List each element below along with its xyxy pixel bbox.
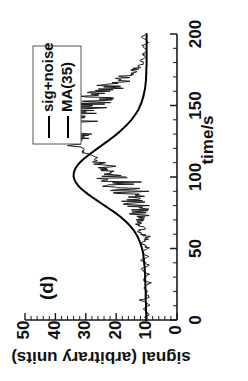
rotated-chart-host: 050100150200 01020304050 time/s signal (… (11, 10, 237, 372)
x-tick-label: 100 (186, 163, 205, 191)
figure-frame: 050100150200 01020304050 time/s signal (… (0, 0, 248, 381)
y-tick-label: 10 (136, 321, 155, 340)
x-tick-label: 0 (186, 315, 205, 324)
y-tick-label: 40 (45, 321, 64, 340)
figure-outer-border: 050100150200 01020304050 time/s signal (… (11, 10, 237, 372)
panel-label: (d) (36, 276, 57, 300)
x-tick-label: 200 (186, 20, 205, 48)
y-tick-label: 30 (75, 321, 94, 340)
x-tick-label: 50 (186, 239, 205, 258)
y-axis-title: signal (arbitrary units) (11, 348, 190, 367)
y-tick-label: 20 (106, 321, 125, 340)
legend-label-sig-noise: sig+noise (39, 42, 56, 112)
x-axis-tick-labels: 050100150200 (186, 20, 205, 325)
legend-label-ma: MA(35) (58, 62, 75, 112)
x-axis-title: time/s (198, 115, 217, 164)
y-tick-label: 0 (166, 325, 185, 334)
y-tick-label: 50 (14, 321, 33, 340)
chart-svg: 050100150200 01020304050 time/s signal (… (11, 10, 237, 372)
y-axis-tick-labels: 01020304050 (14, 321, 185, 340)
legend: sig+noise MA(35) (33, 42, 81, 144)
